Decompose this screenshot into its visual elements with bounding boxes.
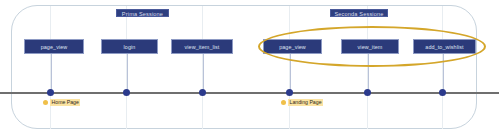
connector-0 [51,54,52,92]
event-box-4[interactable]: view_item [341,39,399,54]
session-label-1: Seconda Sessione [330,9,388,17]
session-timeline-diagram: Prima SessioneSeconda Sessione page_view… [0,0,499,135]
page-marker-dot-icon [281,100,286,105]
page-marker-0: Home Page [43,99,80,106]
event-box-0[interactable]: page_view [24,39,84,54]
connector-3 [290,54,291,92]
event-box-1[interactable]: login [101,39,158,54]
connector-4 [368,54,369,92]
connector-1 [127,54,128,92]
diagram-frame [11,5,477,129]
page-marker-1: Landing Page [281,99,323,106]
session-label-0: Prima Sessione [116,9,169,17]
page-marker-label-1: Landing Page [288,99,323,106]
event-box-3[interactable]: page_view [263,39,322,54]
event-box-2[interactable]: view_item_list [171,39,233,54]
connector-2 [203,54,204,92]
timeline-axis [0,92,499,94]
page-marker-dot-icon [43,100,48,105]
page-marker-label-0: Home Page [50,99,80,106]
connector-5 [443,54,444,92]
event-box-5[interactable]: add_to_wishlist [413,39,476,54]
